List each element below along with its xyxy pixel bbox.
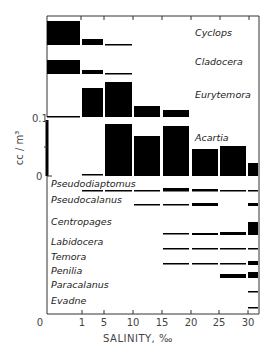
y-axis-title: cc / m³ xyxy=(14,131,25,165)
x-tick-15: 15 xyxy=(156,317,169,328)
series-evadne xyxy=(248,307,258,309)
label-penilia: Penilia xyxy=(51,265,83,276)
series-penilia xyxy=(220,272,258,278)
series-pseudocalanus xyxy=(134,203,258,206)
y-tick-0: 0 xyxy=(36,171,42,182)
y-tick-0.1: 0.1 xyxy=(32,113,48,124)
x-axis-title: SALINITY, ‰ xyxy=(103,333,173,344)
series-eurytemora xyxy=(47,82,189,118)
bottom-ticks xyxy=(82,310,248,314)
label-pseudodiaptomus: Pseudodiaptomus xyxy=(51,178,136,189)
label-paracalanus: Paracalanus xyxy=(51,279,109,290)
series-labidocera xyxy=(163,248,258,250)
label-eurytemora: Eurytemora xyxy=(195,89,251,100)
x-tick-labels: 0 1 5 10 15 20 25 30 xyxy=(37,317,255,328)
label-centropages: Centropages xyxy=(51,216,112,227)
label-temora: Temora xyxy=(51,251,86,262)
series-paracalanus xyxy=(248,291,258,293)
top-ticks xyxy=(81,16,249,20)
label-acartia: Acartia xyxy=(194,132,229,143)
series-cyclops xyxy=(47,21,132,46)
series-acartia xyxy=(82,124,258,176)
x-tick-20: 20 xyxy=(185,317,198,328)
series-temora xyxy=(163,261,258,265)
series-centropages xyxy=(163,222,258,235)
zooplankton-salinity-chart: Cyclops Cladocera Eurytemora 0.1 0 cc / … xyxy=(0,0,277,356)
x-tick-10: 10 xyxy=(127,317,140,328)
x-tick-5: 5 xyxy=(101,317,107,328)
x-tick-25: 25 xyxy=(213,317,226,328)
label-cladocera: Cladocera xyxy=(195,56,243,67)
label-evadne: Evadne xyxy=(51,295,86,306)
x-tick-1: 1 xyxy=(79,317,85,328)
series-cladocera xyxy=(47,60,132,75)
label-pseudocalanus: Pseudocalanus xyxy=(51,194,122,205)
x-tick-0: 0 xyxy=(37,317,43,328)
label-labidocera: Labidocera xyxy=(51,236,104,247)
x-tick-30: 30 xyxy=(242,317,255,328)
label-cyclops: Cyclops xyxy=(195,27,232,38)
